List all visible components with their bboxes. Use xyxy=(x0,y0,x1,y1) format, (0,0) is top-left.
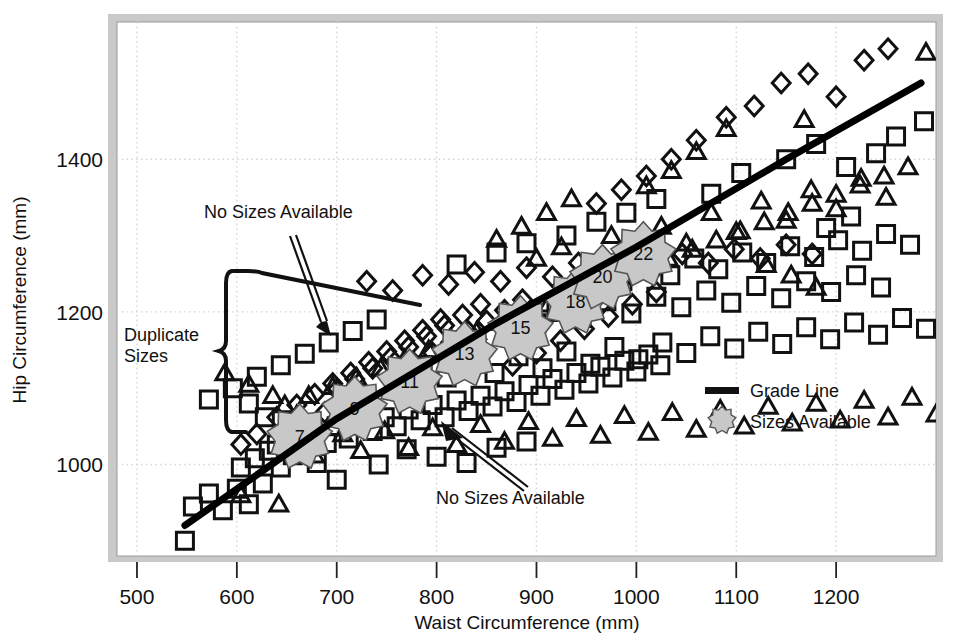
legend-label-sizes-available: Sizes Available xyxy=(750,412,871,432)
chart-page: 500600700800900100011001200 100012001400… xyxy=(0,0,966,642)
x-axis-title: Waist Circumference (mm) xyxy=(414,612,639,633)
y-tick-label: 1200 xyxy=(56,301,103,324)
annotation-duplicate-line1: Duplicate xyxy=(124,325,199,345)
x-tick-label: 600 xyxy=(219,585,254,608)
annotation-no-sizes-bottom: No Sizes Available xyxy=(436,488,585,508)
x-tick-label: 1000 xyxy=(613,585,660,608)
annotation-no-sizes-top: No Sizes Available xyxy=(204,202,353,222)
x-tick-label: 1200 xyxy=(813,585,860,608)
legend-swatch-grade-line xyxy=(705,387,739,394)
annotation-duplicate-line2: Sizes xyxy=(124,346,168,366)
size-marker-label: 15 xyxy=(510,318,530,338)
scatter-chart: 500600700800900100011001200 100012001400… xyxy=(0,0,966,642)
legend-label-grade-line: Grade Line xyxy=(750,381,839,401)
y-axis-title: Hip Circumference (mm) xyxy=(9,197,30,404)
y-tick-label: 1000 xyxy=(56,453,103,476)
y-tick-label: 1400 xyxy=(56,148,103,171)
x-tick-label: 500 xyxy=(119,585,154,608)
x-tick-label: 900 xyxy=(519,585,554,608)
x-tick-label: 800 xyxy=(419,585,454,608)
x-tick-label: 700 xyxy=(319,585,354,608)
x-tick-label: 1100 xyxy=(714,585,759,608)
